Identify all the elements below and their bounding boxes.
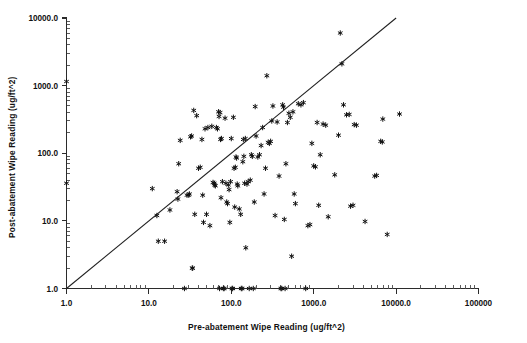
data-point-marker bbox=[289, 254, 294, 259]
x-axis-title: Pre-abatement Wipe Reading (ug/ft^2) bbox=[188, 322, 345, 332]
plot-canvas: 1.010.0100.01000.010000.010000010000.010… bbox=[0, 0, 527, 343]
data-point-marker bbox=[341, 102, 346, 107]
data-point-marker bbox=[228, 179, 233, 184]
x-axis-tick-label: 10.0 bbox=[141, 299, 157, 308]
y-axis-tick-label: 100.0 bbox=[38, 149, 59, 158]
data-point-marker bbox=[64, 181, 69, 186]
data-point-marker bbox=[252, 199, 257, 204]
data-point-marker bbox=[263, 166, 268, 171]
data-point-marker bbox=[316, 203, 321, 208]
data-point-marker bbox=[380, 116, 385, 121]
data-point-marker bbox=[265, 73, 270, 78]
data-point-marker bbox=[277, 173, 282, 178]
data-point-marker bbox=[282, 217, 287, 222]
data-point-marker bbox=[64, 79, 69, 84]
x-axis-tick-label: 10000.0 bbox=[381, 299, 411, 308]
data-point-marker bbox=[332, 172, 337, 177]
data-point-marker bbox=[238, 212, 243, 217]
data-point-marker bbox=[363, 219, 368, 224]
x-axis-tick-label: 100.0 bbox=[221, 299, 242, 308]
data-point-marker bbox=[243, 245, 248, 250]
data-point-marker bbox=[397, 111, 402, 116]
data-point-marker bbox=[237, 206, 242, 211]
data-point-marker bbox=[292, 191, 297, 196]
identity-reference-line bbox=[67, 18, 397, 289]
y-axis-tick-label: 1.0 bbox=[47, 285, 59, 294]
y-axis-title: Post-abatement Wipe Reading (ug/ft^2) bbox=[7, 76, 17, 238]
data-point-marker bbox=[168, 207, 173, 212]
y-axis-tick-label: 10.0 bbox=[42, 217, 58, 226]
data-point-marker bbox=[310, 141, 315, 146]
data-point-marker bbox=[242, 154, 247, 159]
data-point-marker bbox=[176, 161, 181, 166]
data-point-marker bbox=[191, 108, 196, 113]
x-axis-tick-label: 100000 bbox=[465, 299, 493, 308]
data-point-marker bbox=[338, 30, 343, 35]
data-point-marker bbox=[227, 187, 232, 192]
data-point-marker bbox=[271, 103, 276, 108]
data-point-marker bbox=[190, 265, 195, 270]
data-point-marker bbox=[162, 239, 167, 244]
data-point-marker bbox=[175, 189, 180, 194]
data-point-marker bbox=[232, 204, 237, 209]
data-point-marker bbox=[228, 220, 233, 225]
data-point-marker bbox=[326, 214, 331, 219]
data-point-marker bbox=[240, 159, 245, 164]
data-point-marker bbox=[208, 223, 213, 228]
x-axis-tick-label: 1.0 bbox=[61, 299, 73, 308]
data-point-marker bbox=[275, 119, 280, 124]
data-point-marker bbox=[156, 239, 161, 244]
data-point-marker bbox=[273, 213, 278, 218]
data-point-marker bbox=[318, 152, 323, 157]
data-point-marker bbox=[253, 104, 258, 109]
data-point-marker bbox=[291, 109, 296, 114]
data-point-marker bbox=[284, 161, 289, 166]
data-point-marker bbox=[200, 137, 205, 142]
x-axis-tick-label: 1000.0 bbox=[301, 299, 326, 308]
data-point-marker bbox=[293, 201, 298, 206]
data-point-marker bbox=[219, 195, 224, 200]
data-point-marker bbox=[285, 120, 290, 125]
data-point-marker bbox=[150, 186, 155, 191]
data-point-marker bbox=[217, 114, 222, 119]
data-point-marker bbox=[315, 120, 320, 125]
data-point-marker bbox=[223, 115, 228, 120]
data-point-marker bbox=[231, 115, 236, 120]
data-point-marker bbox=[204, 212, 209, 217]
data-point-marker bbox=[200, 192, 205, 197]
data-point-marker bbox=[262, 191, 267, 196]
data-point-marker bbox=[192, 212, 197, 217]
data-point-marker bbox=[178, 138, 183, 143]
data-point-marker bbox=[201, 220, 206, 225]
data-point-marker bbox=[194, 113, 199, 118]
y-axis-tick-label: 1000.0 bbox=[33, 82, 58, 91]
scatter-plot-figure: 1.010.0100.01000.010000.010000010000.010… bbox=[0, 0, 527, 343]
data-point-marker bbox=[259, 143, 264, 148]
data-point-marker bbox=[229, 136, 234, 141]
y-axis-tick-label: 10000.0 bbox=[28, 14, 58, 23]
data-point-marker bbox=[336, 132, 341, 137]
data-point-marker bbox=[385, 232, 390, 237]
